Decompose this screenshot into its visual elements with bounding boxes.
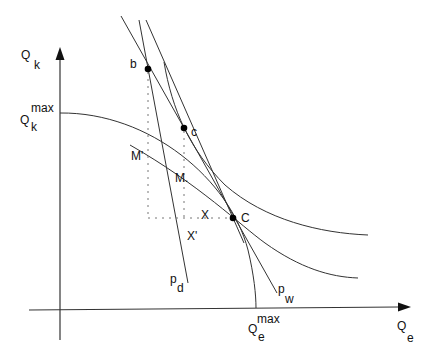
point-b-label: b: [130, 58, 137, 70]
x-max-label-superscript: max: [257, 313, 280, 325]
price-line-pw: [121, 16, 277, 293]
y-max-label-subscript: k: [31, 121, 37, 133]
pd-label-symbol: p: [170, 273, 177, 285]
point-c: [181, 125, 188, 132]
y-axis-label-subscript: k: [34, 59, 40, 71]
pw-label-subscript: w: [285, 293, 294, 305]
x-axis-arrow-icon: [398, 303, 411, 312]
label-M: M.: [175, 172, 188, 184]
point-b: [145, 66, 152, 73]
x-max-label-subscript: e: [258, 331, 265, 343]
point-C: [230, 215, 237, 222]
pd-label-subscript: d: [177, 282, 184, 294]
x-max-label-symbol: Q: [248, 323, 257, 335]
point-C-label: C: [241, 212, 250, 224]
y-axis-arrow-icon: [56, 47, 65, 60]
x-axis-label-subscript: e: [407, 332, 414, 344]
x-axis-label-symbol: Q: [397, 320, 406, 332]
label-X-prime: X': [187, 230, 197, 242]
point-c-label: c: [191, 126, 197, 138]
indifference-curve-upper: [164, 62, 368, 235]
label-M-prime: M': [131, 150, 143, 162]
production-possibility-frontier: [60, 113, 256, 308]
y-axis-label-symbol: Q: [21, 49, 30, 61]
y-max-label-symbol: Q: [20, 114, 29, 126]
label-X: X: [201, 209, 209, 221]
pw-label-symbol: p: [278, 283, 285, 295]
x-axis: [29, 307, 398, 310]
trade-diagram: [0, 0, 432, 357]
y-max-label-superscript: max: [31, 102, 54, 114]
